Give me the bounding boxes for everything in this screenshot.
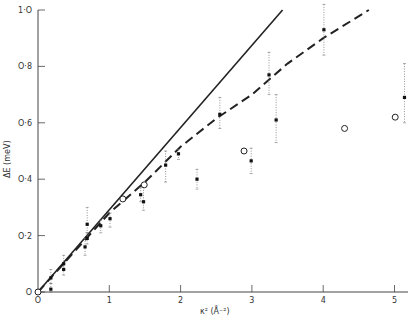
data-point xyxy=(49,276,52,279)
data-point xyxy=(62,262,65,265)
x-tick-label: 3 xyxy=(249,296,254,305)
data-point xyxy=(83,245,86,248)
x-tick-label: O xyxy=(35,296,41,305)
data-point xyxy=(86,237,89,240)
data-point xyxy=(322,28,325,31)
data-point xyxy=(403,96,406,99)
open-circle-point xyxy=(120,196,126,202)
y-tick-label: O·2 xyxy=(18,232,32,241)
data-point xyxy=(108,217,111,220)
y-tick-label: O·4 xyxy=(18,175,32,184)
y-axis-title: ΔE (meV) xyxy=(3,141,12,179)
data-point xyxy=(218,113,221,116)
data-point xyxy=(275,118,278,121)
y-tick-label: O·8 xyxy=(18,62,32,71)
x-axis: O12345 xyxy=(35,285,408,305)
x-tick-label: 1 xyxy=(107,296,112,305)
y-axis: OO·2O·4O·6O·81·O xyxy=(18,6,45,297)
fit-lines xyxy=(38,10,369,292)
data-point xyxy=(195,178,198,181)
data-point xyxy=(86,223,89,226)
data-point xyxy=(99,224,102,227)
x-tick-label: 5 xyxy=(392,296,397,305)
x-tick-label: 4 xyxy=(321,296,326,305)
data-point xyxy=(139,193,142,196)
error-bars xyxy=(49,4,406,292)
open-circle-point xyxy=(141,182,147,188)
dashed-fit-curve xyxy=(38,10,369,292)
open-circle-point xyxy=(241,148,247,154)
data-point xyxy=(49,288,52,291)
data-point xyxy=(177,152,180,155)
y-tick-label: O xyxy=(26,288,32,297)
data-point xyxy=(267,73,270,76)
data-markers xyxy=(35,28,406,295)
open-circle-point xyxy=(392,114,398,120)
chart: OO·2O·4O·6O·81·O O12345 ΔE (meV) κ² (Å⁻²… xyxy=(0,0,412,320)
data-point xyxy=(62,268,65,271)
y-tick-label: 1·O xyxy=(18,6,32,15)
x-tick-label: 2 xyxy=(178,296,183,305)
open-circle-point xyxy=(342,125,348,131)
data-point xyxy=(164,164,167,167)
y-tick-label: O·6 xyxy=(18,119,32,128)
data-point xyxy=(250,159,253,162)
data-point xyxy=(142,200,145,203)
open-circle-point xyxy=(35,289,41,295)
x-axis-title: κ² (Å⁻²) xyxy=(200,305,230,316)
